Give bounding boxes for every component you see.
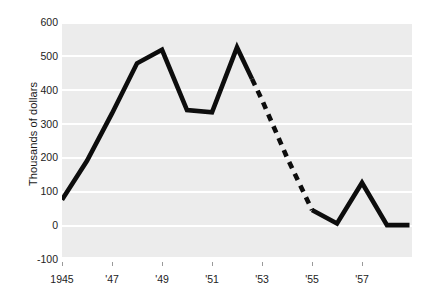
x-tick-1949: '49 xyxy=(142,274,182,285)
series-segment-solid-early xyxy=(62,47,252,199)
series-segment-solid-late xyxy=(312,183,410,225)
y-tick-400: 400 xyxy=(24,85,58,95)
y-tick-500: 500 xyxy=(24,51,58,61)
y-tick-neg100: -100 xyxy=(24,254,58,264)
y-tick-600: 600 xyxy=(24,17,58,27)
x-tickmark-1957 xyxy=(362,262,363,266)
x-tickmark-1953 xyxy=(262,262,263,266)
x-tick-1951: '51 xyxy=(192,274,232,285)
series-segment-dashed xyxy=(252,79,312,210)
data-series-line xyxy=(62,22,412,259)
y-tick-200: 200 xyxy=(24,152,58,162)
x-tickmark-1955 xyxy=(312,262,313,266)
x-tick-1947: '47 xyxy=(92,274,132,285)
x-tickmark-1949 xyxy=(162,262,163,266)
plot-area xyxy=(62,22,412,259)
y-tick-0: 0 xyxy=(24,220,58,230)
x-tick-1955: '55 xyxy=(292,274,332,285)
x-tickmark-1947 xyxy=(112,262,113,266)
x-tickmark-1945 xyxy=(62,262,63,266)
x-tick-1957: '57 xyxy=(342,274,382,285)
y-tick-300: 300 xyxy=(24,119,58,129)
y-axis-tick-labels: 600 500 400 300 200 100 0 -100 xyxy=(22,0,58,302)
y-tick-100: 100 xyxy=(24,186,58,196)
x-tick-1945: 1945 xyxy=(42,274,82,285)
line-chart: Thousands of dollars 600 500 400 300 200… xyxy=(0,0,437,302)
x-tickmark-1951 xyxy=(212,262,213,266)
x-tick-1953: '53 xyxy=(242,274,282,285)
